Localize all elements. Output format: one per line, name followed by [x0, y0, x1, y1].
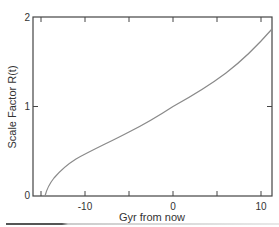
- x-tick-label: 10: [255, 201, 267, 212]
- x-tick-label: -10: [78, 201, 93, 212]
- y-axis-label: Scale Factor R(t): [6, 65, 18, 148]
- bottom-divider-bar: [6, 223, 279, 225]
- scale-factor-chart: -10 0 10 0 1 2 Gyr from now Scale Factor…: [0, 0, 279, 227]
- y-tick-label: 0: [24, 190, 30, 201]
- plot-frame: [33, 17, 272, 196]
- scale-factor-curve: [45, 29, 272, 196]
- y-tick-label: 2: [24, 12, 30, 23]
- y-tick-label: 1: [24, 101, 30, 112]
- x-axis-label: Gyr from now: [119, 211, 185, 223]
- x-ticks-bottom: [41, 191, 261, 196]
- x-ticks-top: [41, 17, 261, 22]
